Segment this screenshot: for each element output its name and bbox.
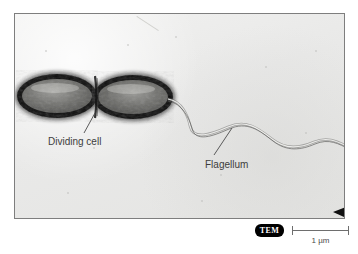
scale-bar-tick-left (292, 226, 293, 235)
label-dividing-cell: Dividing cell (48, 136, 101, 147)
leader-line-dividing-cell (84, 113, 95, 133)
scale-bar-label: 1 µm (292, 236, 349, 245)
flagellum-filament (168, 97, 349, 149)
label-flagellum: Flagellum (205, 159, 248, 170)
tem-technique-badge: TEM (255, 224, 284, 237)
scale-bar-rule (292, 230, 349, 231)
scale-bar: 1 µm (292, 224, 349, 250)
scale-bar-tick-right (348, 226, 349, 235)
figure-caption-row: TEM 1 µm (0, 219, 358, 254)
specimen-overlay: Dividing cell Flagellum (0, 0, 358, 254)
tem-figure: Dividing cell Flagellum TEM 1 µm (0, 0, 358, 254)
